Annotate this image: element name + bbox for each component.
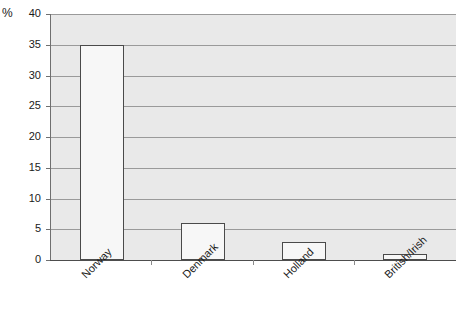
- y-axis-tick-label: 0: [15, 253, 41, 265]
- chart-title-remnant: [250, 0, 410, 4]
- y-axis-tick-label: 15: [15, 161, 41, 173]
- bar-chart: % 0510152025303540 NorwayDenmarkHollandB…: [0, 0, 470, 319]
- y-axis-tick-mark: [46, 168, 51, 169]
- y-axis-tick-label: 25: [15, 99, 41, 111]
- y-axis-tick-label: 40: [15, 7, 41, 19]
- y-axis-tick-mark: [46, 76, 51, 77]
- y-axis-tick-label: 35: [15, 38, 41, 50]
- y-axis-tick-label: 20: [15, 130, 41, 142]
- plot-area: [50, 14, 456, 260]
- y-axis-tick-mark: [46, 14, 51, 15]
- y-axis-unit-label: %: [2, 6, 13, 20]
- y-axis-tick-mark: [46, 137, 51, 138]
- y-axis-tick-mark: [46, 229, 51, 230]
- y-axis-tick-mark: [46, 106, 51, 107]
- x-axis-tick-mark: [354, 260, 355, 265]
- x-axis-tick-mark: [253, 260, 254, 265]
- x-axis-tick-mark: [151, 260, 152, 265]
- gridline: [51, 14, 456, 15]
- y-axis-tick-label: 5: [15, 222, 41, 234]
- y-axis-tick-label: 30: [15, 69, 41, 81]
- y-axis-tick-mark: [46, 45, 51, 46]
- bar: [80, 45, 124, 260]
- y-axis-tick-mark: [46, 199, 51, 200]
- y-axis-tick-label: 10: [15, 192, 41, 204]
